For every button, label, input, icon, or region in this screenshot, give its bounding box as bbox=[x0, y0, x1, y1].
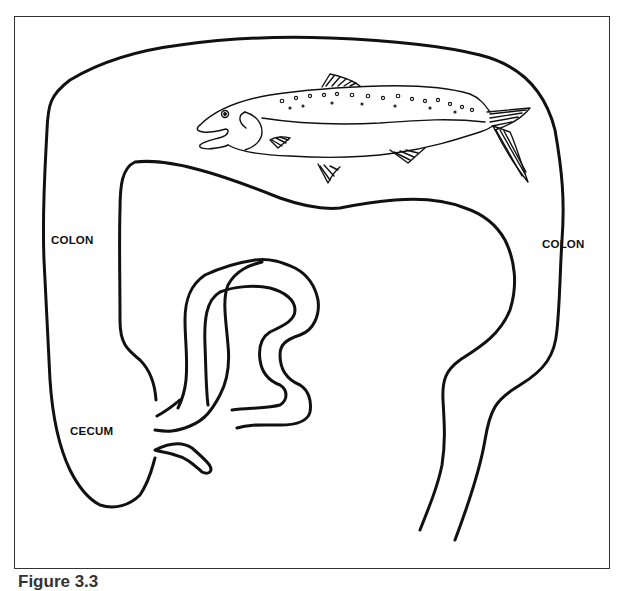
figure-caption: Figure 3.3 bbox=[18, 573, 98, 590]
appendix-tube bbox=[155, 444, 211, 473]
colon-inner-wall bbox=[120, 161, 515, 530]
label-colon-right: COLON bbox=[542, 238, 585, 250]
label-cecum: CECUM bbox=[70, 425, 113, 437]
small-intestine-outer bbox=[178, 259, 318, 428]
label-colon-left: COLON bbox=[51, 234, 94, 246]
fish-illustration bbox=[197, 74, 530, 183]
